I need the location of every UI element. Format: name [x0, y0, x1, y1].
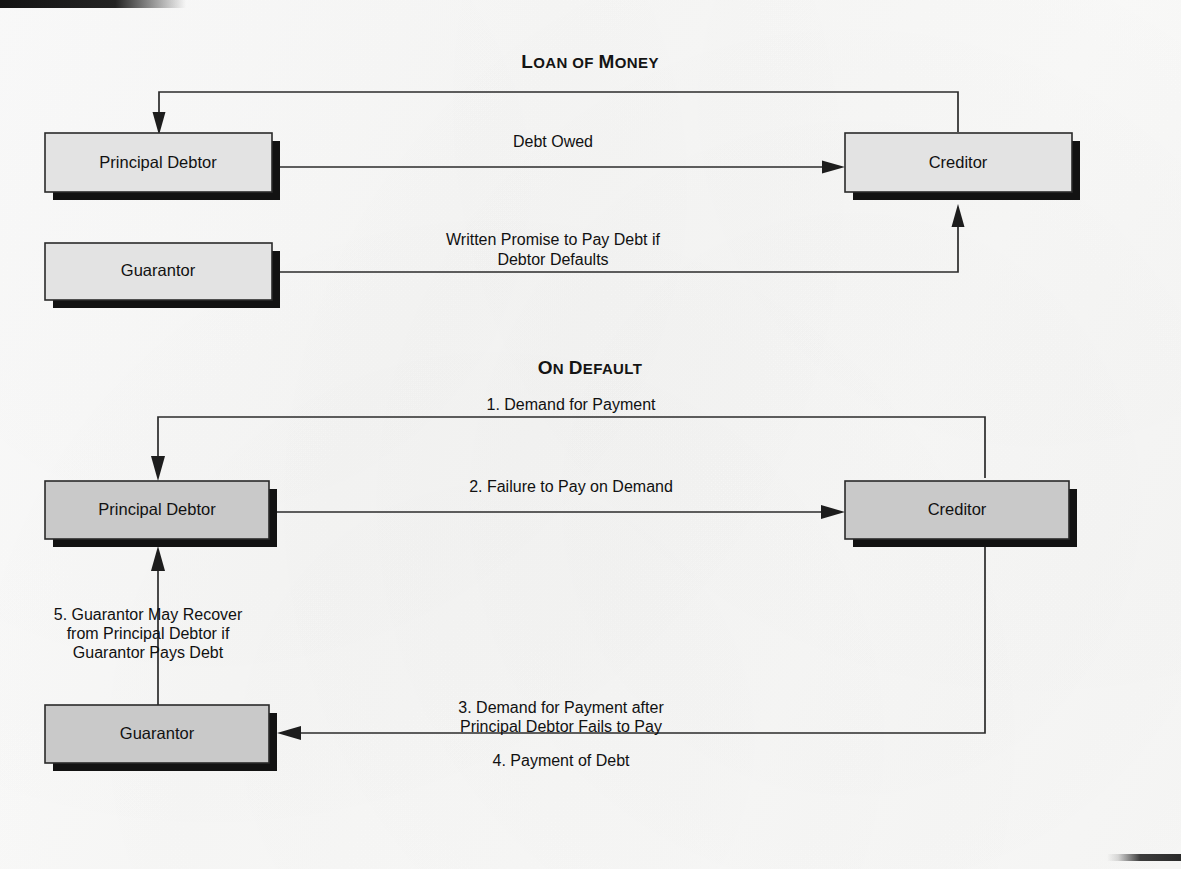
arrowhead-demand-after-failure — [277, 726, 301, 740]
guaranty-diagram: LOAN OF MONEY ON DEFAULT Principal Debto… — [0, 0, 1181, 869]
node-label: Creditor — [928, 500, 987, 518]
arrowhead-written-promise — [952, 204, 965, 227]
edge-label-written-promise-line2: Debtor Defaults — [497, 251, 608, 268]
node-label: Creditor — [929, 153, 988, 171]
edge-label-demand-after-line2: Principal Debtor Fails to Pay — [460, 718, 662, 735]
arrowhead-demand-for-payment — [151, 456, 165, 481]
edge-label-payment-of-debt: 4. Payment of Debt — [493, 752, 631, 769]
node-label: Guarantor — [121, 261, 196, 279]
node-principal-debtor-top: Principal Debtor — [45, 133, 280, 200]
heading-on-default: ON DEFAULT — [538, 357, 643, 378]
arrowhead-failure-to-pay — [821, 505, 845, 519]
node-guarantor-bottom: Guarantor — [45, 705, 277, 771]
arrowhead-guarantor-recovery — [151, 546, 165, 571]
edge-label-recover-line1: 5. Guarantor May Recover — [54, 606, 243, 623]
arrowhead-debt-owed — [822, 161, 845, 174]
connector-loan-of-money — [159, 92, 958, 132]
node-label: Guarantor — [120, 724, 195, 742]
node-principal-debtor-bottom: Principal Debtor — [45, 481, 277, 547]
connector-demand-for-payment — [158, 417, 985, 478]
node-creditor-top: Creditor — [845, 133, 1080, 200]
node-label: Principal Debtor — [98, 500, 216, 518]
edge-label-demand-after-line1: 3. Demand for Payment after — [458, 699, 664, 716]
heading-loan-of-money: LOAN OF MONEY — [521, 51, 659, 72]
edge-label-recover-line3: Guarantor Pays Debt — [73, 644, 224, 661]
node-creditor-bottom: Creditor — [845, 481, 1077, 547]
edge-label-failure-to-pay: 2. Failure to Pay on Demand — [469, 478, 673, 495]
edge-label-demand-for-payment: 1. Demand for Payment — [487, 396, 657, 413]
edge-label-written-promise-line1: Written Promise to Pay Debt if — [446, 231, 661, 248]
node-label: Principal Debtor — [99, 153, 217, 171]
arrowhead-loan-of-money — [153, 112, 166, 135]
edge-label-recover-line2: from Principal Debtor if — [67, 625, 230, 642]
edge-label-debt-owed: Debt Owed — [513, 133, 593, 150]
node-guarantor-top: Guarantor — [45, 243, 280, 308]
